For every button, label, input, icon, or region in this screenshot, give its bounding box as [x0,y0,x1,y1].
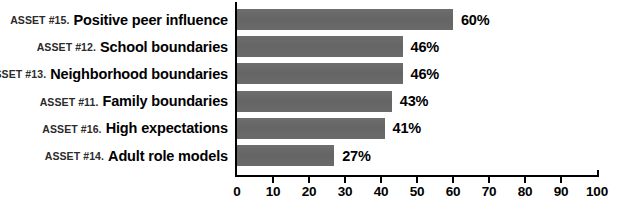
asset-number: ASSET #15. [10,14,69,26]
asset-number: ASSET #12. [37,41,96,53]
category-label: ASSET #14.Adult role models [45,145,228,166]
x-axis-tick-label: 80 [518,184,533,199]
bar [237,91,392,112]
category-label: ASSET #11.Family boundaries [40,91,228,112]
x-axis-tick [344,177,346,183]
x-axis-tick [416,177,418,183]
bar [237,63,403,84]
bar [237,36,403,57]
x-axis-tick-label: 70 [482,184,497,199]
bar-value-label: 41% [393,118,421,139]
x-axis-tick [452,177,454,183]
bar [237,145,334,166]
asset-name: Positive peer influence [74,12,229,28]
x-axis-tick-label: 10 [266,184,281,199]
x-axis-tick-label: 30 [338,184,353,199]
axis-end-cap [235,170,237,177]
category-label: ASSET #13.Neighborhood boundaries [0,63,228,84]
category-label-column: ASSET #15.Positive peer influenceASSET #… [0,0,232,175]
asset-number: ASSET #11. [40,96,99,108]
bar-chart: ASSET #15.Positive peer influenceASSET #… [0,0,619,210]
bar [237,118,385,139]
plot-area: 60%46%46%43%41%27%0102030405060708090100 [237,0,597,175]
axis-end-cap [597,170,599,177]
asset-name: School boundaries [100,39,228,55]
bar-value-label: 27% [342,145,370,166]
x-axis-tick [488,177,490,183]
asset-name: Neighborhood boundaries [50,66,228,82]
category-label: ASSET #16.High expectations [42,118,228,139]
asset-number: ASSET #13. [0,68,46,80]
bar-value-label: 46% [411,36,439,57]
x-axis-tick-label: 60 [446,184,461,199]
x-axis-tick-label: 50 [410,184,425,199]
asset-name: High expectations [106,120,228,136]
x-axis-tick [524,177,526,183]
bar-value-label: 46% [411,63,439,84]
bar [237,9,453,30]
x-axis-tick-label: 40 [374,184,389,199]
x-axis-tick-label: 20 [302,184,317,199]
asset-name: Family boundaries [102,93,228,109]
x-axis-tick-label: 0 [233,184,240,199]
bar-value-label: 43% [400,91,428,112]
x-axis-tick [272,177,274,183]
asset-name: Adult role models [108,148,228,164]
category-label: ASSET #12.School boundaries [37,36,228,57]
asset-number: ASSET #16. [42,123,101,135]
category-label: ASSET #15.Positive peer influence [10,9,228,30]
bar-value-label: 60% [461,9,489,30]
x-axis-tick [380,177,382,183]
x-axis-tick [560,177,562,183]
x-axis-tick [308,177,310,183]
x-axis-tick-label: 100 [586,184,608,199]
x-axis-tick-label: 90 [554,184,569,199]
asset-number: ASSET #14. [45,150,104,162]
